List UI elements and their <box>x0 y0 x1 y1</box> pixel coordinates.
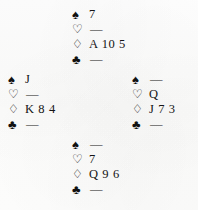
spade-icon: ♠ <box>132 72 145 87</box>
hand-south: ♠ — ♡ 7 ♢ Q 9 6 ♣ — <box>72 137 120 197</box>
east-heart-cards: Q <box>145 87 159 102</box>
bridge-deal-diagram: ♠ 7 ♡ — ♢ A 10 5 ♣ — ♠ J ♡ — ♢ K 8 4 <box>0 0 198 210</box>
east-diamond-cards: J 7 3 <box>145 102 176 117</box>
heart-icon: ♡ <box>132 87 145 102</box>
east-spade-row: ♠ — <box>132 72 176 87</box>
spade-icon: ♠ <box>8 72 21 87</box>
east-diamond-row: ♢ J 7 3 <box>132 102 176 117</box>
heart-icon: ♡ <box>72 22 85 37</box>
diamond-icon: ♢ <box>132 102 145 117</box>
east-heart-row: ♡ Q <box>132 87 176 102</box>
west-diamond-row: ♢ K 8 4 <box>8 102 56 117</box>
club-icon: ♣ <box>72 182 85 197</box>
north-heart-cards: — <box>85 22 103 37</box>
north-heart-row: ♡ — <box>72 22 126 37</box>
spade-icon: ♠ <box>72 137 85 152</box>
heart-icon: ♡ <box>72 152 85 167</box>
south-spade-cards: — <box>85 137 103 152</box>
west-club-cards: — <box>21 117 39 132</box>
spade-icon: ♠ <box>72 7 85 22</box>
west-club-row: ♣ — <box>8 117 56 132</box>
diamond-icon: ♢ <box>72 37 85 52</box>
west-spade-row: ♠ J <box>8 72 56 87</box>
west-heart-row: ♡ — <box>8 87 56 102</box>
south-heart-row: ♡ 7 <box>72 152 120 167</box>
hand-west: ♠ J ♡ — ♢ K 8 4 ♣ — <box>8 72 56 132</box>
north-diamond-cards: A 10 5 <box>85 37 126 52</box>
west-heart-cards: — <box>21 87 39 102</box>
south-diamond-row: ♢ Q 9 6 <box>72 167 120 182</box>
north-spade-cards: 7 <box>85 7 96 22</box>
north-club-row: ♣ — <box>72 52 126 67</box>
east-club-row: ♣ — <box>132 117 176 132</box>
west-diamond-cards: K 8 4 <box>21 102 56 117</box>
hand-east: ♠ — ♡ Q ♢ J 7 3 ♣ — <box>132 72 176 132</box>
south-diamond-cards: Q 9 6 <box>85 167 120 182</box>
east-spade-cards: — <box>145 72 163 87</box>
north-club-cards: — <box>85 52 103 67</box>
diamond-icon: ♢ <box>72 167 85 182</box>
heart-icon: ♡ <box>8 87 21 102</box>
north-spade-row: ♠ 7 <box>72 7 126 22</box>
club-icon: ♣ <box>72 52 85 67</box>
diamond-icon: ♢ <box>8 102 21 117</box>
south-club-cards: — <box>85 182 103 197</box>
hand-north: ♠ 7 ♡ — ♢ A 10 5 ♣ — <box>72 7 126 67</box>
club-icon: ♣ <box>8 117 21 132</box>
west-spade-cards: J <box>21 72 30 87</box>
south-club-row: ♣ — <box>72 182 120 197</box>
north-diamond-row: ♢ A 10 5 <box>72 37 126 52</box>
south-heart-cards: 7 <box>85 152 96 167</box>
club-icon: ♣ <box>132 117 145 132</box>
east-club-cards: — <box>145 117 163 132</box>
south-spade-row: ♠ — <box>72 137 120 152</box>
